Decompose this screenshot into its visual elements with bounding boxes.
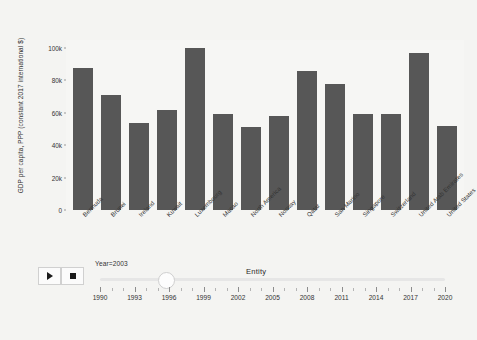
slider-year-label: 2002 bbox=[231, 294, 246, 301]
bar[interactable] bbox=[241, 127, 260, 210]
bar-slot bbox=[97, 40, 125, 210]
slider-tick-minor bbox=[330, 288, 331, 291]
slider-tick-minor bbox=[112, 288, 113, 291]
slider-tick-minor bbox=[422, 288, 423, 291]
slider-tick-major bbox=[342, 287, 343, 292]
slider-tick-major bbox=[411, 287, 412, 292]
stop-button[interactable] bbox=[61, 267, 84, 285]
x-label-slot: Ireland bbox=[125, 211, 153, 255]
y-tick-label: 0 bbox=[58, 207, 62, 214]
bar-slot bbox=[405, 40, 433, 210]
slider-tick-minor bbox=[388, 288, 389, 291]
slider-tick-minor bbox=[250, 288, 251, 291]
bar-slot bbox=[265, 40, 293, 210]
slider-tick-major bbox=[135, 287, 136, 292]
slider-tick-major bbox=[238, 287, 239, 292]
slider-tick-major bbox=[273, 287, 274, 292]
bar-slot bbox=[153, 40, 181, 210]
slider-tick-major bbox=[100, 287, 101, 292]
slider-year-label: 2011 bbox=[334, 294, 348, 301]
bar-slot bbox=[69, 40, 97, 210]
bar-slot bbox=[237, 40, 265, 210]
slider-tick-labels: 1990199319961999200220052008201120142017… bbox=[100, 294, 445, 306]
stop-icon bbox=[70, 273, 76, 279]
slider-tick-minor bbox=[284, 288, 285, 291]
y-tick-label: 40k bbox=[52, 142, 62, 149]
year-value-label: Year=2003 bbox=[95, 260, 128, 267]
bar[interactable] bbox=[157, 110, 176, 210]
slider-tick-minor bbox=[353, 288, 354, 291]
slider-year-label: 2005 bbox=[265, 294, 280, 301]
x-axis-labels: BermudaBruneiIrelandKuwaitLuxembourgMaca… bbox=[66, 211, 464, 255]
slider-year-label: 1999 bbox=[196, 294, 211, 301]
bar[interactable] bbox=[73, 68, 92, 210]
bar-slot bbox=[293, 40, 321, 210]
slider-tick-minor bbox=[261, 288, 262, 291]
slider-tick-minor bbox=[215, 288, 216, 291]
bar-chart: GDP per capita, PPP (constant 2017 inter… bbox=[0, 0, 477, 255]
y-tick-label: 80k bbox=[52, 77, 62, 84]
slider-year-label: 1990 bbox=[93, 294, 108, 301]
slider-tick-minor bbox=[365, 288, 366, 291]
slider-tick-major bbox=[169, 287, 170, 292]
slider-tick-minor bbox=[296, 288, 297, 291]
slider-tick-minor bbox=[181, 288, 182, 291]
animation-controls: Year=2003 Entity 19901993199619992002200… bbox=[0, 258, 477, 340]
x-label-slot: San Marino bbox=[321, 211, 349, 255]
x-label-slot: Brunei bbox=[97, 211, 125, 255]
play-icon bbox=[47, 272, 53, 280]
x-label-slot: United Arab Emirates bbox=[405, 211, 433, 255]
slider-tick-marks bbox=[100, 287, 445, 293]
slider-tick-major bbox=[376, 287, 377, 292]
bar-series bbox=[66, 40, 464, 210]
slider-year-label: 1993 bbox=[127, 294, 142, 301]
bar-slot bbox=[321, 40, 349, 210]
bar[interactable] bbox=[129, 123, 148, 210]
plot-area: 020k40k60k80k100k bbox=[66, 40, 464, 210]
slider-tick-minor bbox=[227, 288, 228, 291]
bar[interactable] bbox=[325, 84, 344, 210]
y-tick-label: 60k bbox=[52, 109, 62, 116]
x-label-slot: Kuwait bbox=[153, 211, 181, 255]
slider-tick-major bbox=[307, 287, 308, 292]
bar[interactable] bbox=[409, 53, 428, 210]
x-label-slot: North America bbox=[237, 211, 265, 255]
slider-tick-minor bbox=[319, 288, 320, 291]
x-label-slot: Macao bbox=[209, 211, 237, 255]
bar-slot bbox=[377, 40, 405, 210]
slider-entity-label: Entity bbox=[246, 267, 266, 276]
slider-tick-minor bbox=[399, 288, 400, 291]
slider-year-label: 1996 bbox=[162, 294, 177, 301]
x-label-slot: Luxembourg bbox=[181, 211, 209, 255]
bar-slot bbox=[125, 40, 153, 210]
bar-slot bbox=[209, 40, 237, 210]
chart-page: GDP per capita, PPP (constant 2017 inter… bbox=[0, 0, 477, 340]
slider-tick-minor bbox=[146, 288, 147, 291]
bar[interactable] bbox=[101, 95, 120, 210]
slider-tick-minor bbox=[192, 288, 193, 291]
slider-year-label: 2017 bbox=[403, 294, 418, 301]
bar[interactable] bbox=[185, 48, 204, 210]
x-label-slot: Switzerland bbox=[377, 211, 405, 255]
slider-year-label: 2014 bbox=[369, 294, 384, 301]
play-button[interactable] bbox=[38, 267, 61, 285]
slider-tick-minor bbox=[123, 288, 124, 291]
bar-slot bbox=[349, 40, 377, 210]
x-label-slot: Bermuda bbox=[69, 211, 97, 255]
x-label-slot: Qatar bbox=[293, 211, 321, 255]
slider-tick-major bbox=[204, 287, 205, 292]
slider-tick-minor bbox=[434, 288, 435, 291]
year-slider-track[interactable] bbox=[100, 278, 445, 281]
y-tick-label: 20k bbox=[52, 174, 62, 181]
slider-tick-minor bbox=[158, 288, 159, 291]
y-axis-title: GDP per capita, PPP (constant 2017 inter… bbox=[17, 11, 24, 221]
x-label-slot: Singapore bbox=[349, 211, 377, 255]
slider-year-label: 2008 bbox=[300, 294, 315, 301]
bar[interactable] bbox=[297, 71, 316, 210]
slider-year-label: 2020 bbox=[438, 294, 453, 301]
y-tick-label: 100k bbox=[48, 45, 62, 52]
slider-tick-major bbox=[445, 287, 446, 292]
bar-slot bbox=[181, 40, 209, 210]
x-label-slot: Norway bbox=[265, 211, 293, 255]
x-label-slot: United States bbox=[433, 211, 461, 255]
